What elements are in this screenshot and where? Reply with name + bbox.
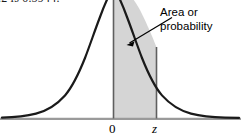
area-probability-annotation: Area or probability [160,6,212,33]
x-axis-tick-label-z: z [152,121,157,137]
normal-distribution-figure: .2 is 0.5944. Area or probability 0 z [0,0,241,140]
annotation-line-1: Area or [160,6,212,20]
shaded-area-region [114,0,157,119]
x-axis-tick-label-zero: 0 [109,121,116,137]
annotation-line-2: probability [160,20,212,34]
